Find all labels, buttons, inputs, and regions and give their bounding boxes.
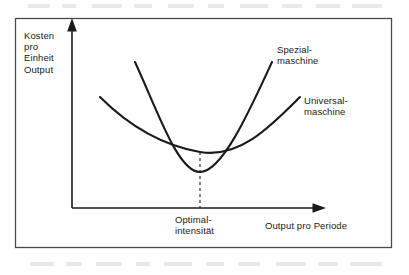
series-label-spezialmaschine: Spezial- maschine <box>277 44 318 66</box>
series-label-universalmaschine: Universal- maschine <box>304 95 348 117</box>
y-axis-title: Kosten pro Einheit Output <box>24 30 54 75</box>
x-axis-title: Output pro Periode <box>265 220 347 231</box>
optimum-annotation-label: Optimal- intensität <box>175 214 214 236</box>
figure-container: Kosten pro Einheit Output Spezial- masch… <box>0 0 409 275</box>
